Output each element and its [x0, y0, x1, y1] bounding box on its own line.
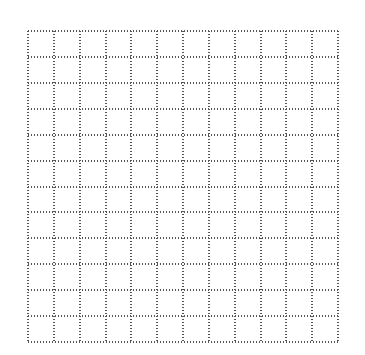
grid-vertical-line: [182, 30, 184, 343]
grid-vertical-line: [156, 30, 158, 343]
grid-vertical-line: [27, 30, 29, 343]
dotted-grid: [27, 30, 339, 343]
grid-vertical-line: [260, 30, 262, 343]
grid-vertical-line: [234, 30, 236, 343]
grid-vertical-line: [285, 30, 287, 343]
grid-vertical-line: [337, 30, 339, 343]
grid-vertical-line: [208, 30, 210, 343]
grid-vertical-line: [53, 30, 55, 343]
grid-vertical-line: [130, 30, 132, 343]
grid-vertical-line: [311, 30, 313, 343]
grid-vertical-line: [79, 30, 81, 343]
grid-vertical-line: [105, 30, 107, 343]
